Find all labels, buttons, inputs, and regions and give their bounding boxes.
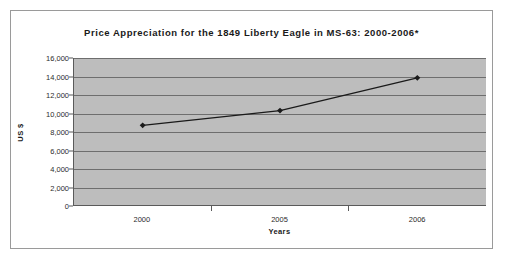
y-tick-label: 16,000 — [23, 54, 69, 63]
chart-frame: Price Appreciation for the 1849 Liberty … — [10, 10, 493, 249]
plot-area — [73, 58, 486, 206]
x-axis-ticks: 200020052006 — [73, 206, 486, 228]
y-tick-label: 8,000 — [23, 128, 69, 137]
x-axis-title: Years — [73, 227, 486, 236]
x-tick-label: 2005 — [271, 215, 288, 224]
y-tick-label: 2,000 — [23, 183, 69, 192]
chart-title: Price Appreciation for the 1849 Liberty … — [11, 27, 492, 38]
x-tick-label: 2000 — [133, 215, 150, 224]
data-point-marker — [277, 108, 283, 114]
x-tick-mark — [211, 206, 212, 211]
data-point-marker — [414, 75, 420, 81]
series-line-chart — [74, 58, 486, 206]
series-line — [143, 78, 418, 126]
x-tick-label: 2006 — [409, 215, 426, 224]
y-tick-label: 6,000 — [23, 146, 69, 155]
y-tick-label: 10,000 — [23, 109, 69, 118]
y-axis-ticks: 16,00014,00012,00010,0008,0006,0004,0002… — [15, 58, 69, 206]
x-tick-mark — [348, 206, 349, 211]
y-tick-label: 12,000 — [23, 91, 69, 100]
y-tick-label: 0 — [23, 202, 69, 211]
data-point-marker — [140, 122, 146, 128]
y-tick-label: 4,000 — [23, 165, 69, 174]
y-tick-label: 14,000 — [23, 72, 69, 81]
